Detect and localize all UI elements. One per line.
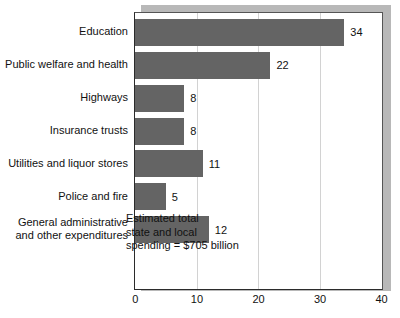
- chart-annotation: Estimated totalstate and localspending =…: [126, 212, 239, 253]
- bar-chart-figure: 34228811512 EducationPublic welfare and …: [0, 0, 400, 318]
- x-axis-tick-labels: 010203040: [0, 294, 400, 314]
- category-label: Highways: [0, 91, 128, 104]
- category-label: Police and fire: [0, 190, 128, 203]
- x-tick-label-40: 40: [375, 294, 387, 305]
- category-label-line: Utilities and liquor stores: [0, 157, 128, 170]
- category-label-line: General administrative: [0, 216, 128, 229]
- annotation-line: state and local: [126, 226, 239, 240]
- category-label-line: Insurance trusts: [0, 124, 128, 137]
- category-label-line: Education: [0, 25, 128, 38]
- category-label: Insurance trusts: [0, 124, 128, 137]
- category-label-line: and other expenditures: [0, 229, 128, 242]
- category-label: General administrativeand other expendit…: [0, 216, 128, 241]
- category-label: Public welfare and health: [0, 58, 128, 71]
- x-tick-label-30: 30: [314, 294, 326, 305]
- category-label: Education: [0, 25, 128, 38]
- annotation-line: Estimated total: [126, 212, 239, 226]
- x-tick-label-0: 0: [132, 294, 138, 305]
- x-tick-label-10: 10: [191, 294, 203, 305]
- category-label-line: Highways: [0, 91, 128, 104]
- category-label: Utilities and liquor stores: [0, 157, 128, 170]
- x-tick-label-20: 20: [252, 294, 264, 305]
- annotation-line: spending = $705 billion: [126, 239, 239, 253]
- category-label-line: Police and fire: [0, 190, 128, 203]
- category-label-line: Public welfare and health: [0, 58, 128, 71]
